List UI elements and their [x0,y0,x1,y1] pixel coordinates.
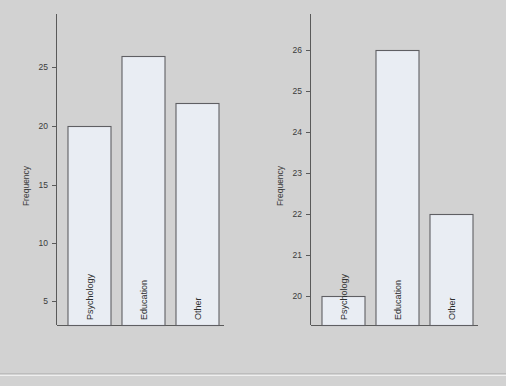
left-bar-other[interactable] [176,104,219,326]
right-ytick-label-26: 26 [293,45,303,55]
right-chart-svg: 26 25 24 23 22 21 20 Frequency Psycholog… [253,0,506,386]
left-category-label-psychology: Psychology [85,273,95,320]
right-ytick-label-20: 20 [293,291,303,301]
right-ytick-label-25: 25 [293,86,303,96]
bottom-separator [0,370,506,380]
left-category-label-other: Other [193,297,203,320]
right-ytick-label-23: 23 [293,168,303,178]
right-y-ticks [306,51,311,297]
right-y-axis-title: Frequency [275,165,285,206]
chart-panel-left: 25 20 15 10 5 Frequency Psychology Educa… [0,0,253,386]
left-ytick-label-15: 15 [39,180,49,190]
left-ytick-label-20: 20 [39,121,49,131]
right-ytick-label-24: 24 [293,127,303,137]
left-y-ticks [52,68,57,302]
left-ytick-label-10: 10 [39,238,49,248]
right-category-label-other: Other [447,297,457,320]
left-category-label-education: Education [139,280,149,320]
figure-canvas: 25 20 15 10 5 Frequency Psychology Educa… [0,0,506,386]
right-category-label-psychology: Psychology [339,273,349,320]
right-ytick-label-22: 22 [293,209,303,219]
left-ytick-label-5: 5 [43,296,48,306]
left-chart-svg: 25 20 15 10 5 Frequency Psychology Educa… [0,0,253,386]
left-y-axis-title: Frequency [21,165,31,206]
chart-panel-right: 26 25 24 23 22 21 20 Frequency Psycholog… [253,0,506,386]
left-ytick-label-25: 25 [39,62,49,72]
right-ytick-label-21: 21 [293,250,303,260]
right-category-label-education: Education [393,280,403,320]
